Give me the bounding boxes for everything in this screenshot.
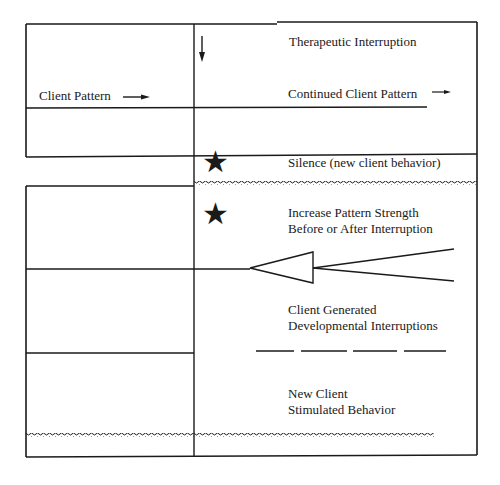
silence-label: Silence (new client behavior) [288, 155, 441, 170]
right-arrow-icon [123, 95, 150, 100]
client-generated-label-1: Client Generated [288, 302, 377, 317]
bottom-wavy-line-icon [26, 433, 434, 437]
star-icon: ★ [202, 196, 229, 231]
converging-arrowhead-icon [250, 249, 454, 283]
star-icon: ★ [202, 144, 229, 179]
client-pattern-label: Client Pattern [39, 88, 111, 103]
down-arrow-icon [199, 36, 205, 62]
client-generated-label-2: Developmental Interruptions [288, 318, 438, 333]
client-pattern-line [26, 107, 427, 108]
increase-pattern-label-1: Increase Pattern Strength [288, 205, 419, 220]
therapeutic-interruption-label: Therapeutic Interruption [289, 34, 417, 49]
wavy-line-icon [194, 181, 477, 185]
new-client-label-1: New Client [288, 386, 348, 401]
interruption-diagram: ★ ★ Client Pattern Therapeutic Interrupt… [0, 0, 500, 485]
continued-client-pattern-label: Continued Client Pattern [288, 86, 418, 101]
new-client-label-2: Stimulated Behavior [288, 402, 396, 417]
right-arrow-icon [432, 90, 451, 94]
increase-pattern-label-2: Before or After Interruption [288, 221, 433, 236]
